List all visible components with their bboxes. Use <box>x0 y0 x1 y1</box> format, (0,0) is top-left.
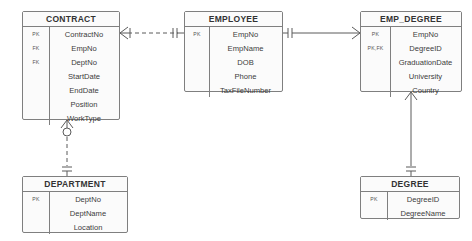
key-column-divider <box>209 27 210 97</box>
attribute-row[interactable]: DOB <box>185 55 282 69</box>
attribute-name: Location <box>49 223 127 232</box>
attribute-row[interactable]: DeptName <box>23 206 127 220</box>
relationship-empdegree-degree <box>405 92 417 176</box>
attribute-key: FK <box>23 45 49 51</box>
attribute-key: PK <box>23 196 49 202</box>
entity-contract[interactable]: CONTRACT PK ContractNo FK EmpNo FK DeptN… <box>22 11 120 120</box>
attribute-name: TaxFileNumber <box>209 86 282 95</box>
attribute-name: StartDate <box>49 72 119 81</box>
attribute-row[interactable]: EmpName <box>185 41 282 55</box>
one-and-only-one-employee-side <box>283 28 292 38</box>
attribute-row[interactable]: PK DeptNo <box>23 192 127 206</box>
attribute-key: PK <box>185 31 209 37</box>
relationship-contract-department <box>61 120 73 176</box>
entity-title-degree: DEGREE <box>361 177 459 192</box>
attribute-row[interactable]: EndDate <box>23 83 119 97</box>
relationship-employee-empdegree <box>283 27 360 39</box>
attribute-key: PK,FK <box>361 45 390 51</box>
attribute-row[interactable]: GraduationDate <box>361 55 461 69</box>
attribute-key: PK <box>361 31 390 37</box>
entity-title-emp-degree: EMP_DEGREE <box>361 12 461 27</box>
attribute-name: WorkType <box>49 114 119 123</box>
entity-title-department: DEPARTMENT <box>23 177 127 192</box>
attribute-row[interactable]: Phone <box>185 69 282 83</box>
crowsfoot-empdegree-side <box>352 27 360 39</box>
attribute-key: PK <box>23 31 49 37</box>
attribute-row[interactable]: PK ContractNo <box>23 27 119 41</box>
attribute-row[interactable]: University <box>361 69 461 83</box>
entity-emp-degree[interactable]: EMP_DEGREE PK EmpNo PK,FK DegreeID Gradu… <box>360 11 462 92</box>
attribute-list-department: PK DeptNo DeptName Location <box>23 192 127 234</box>
key-column-divider <box>387 192 388 220</box>
attribute-row[interactable]: Position <box>23 97 119 111</box>
attribute-name: DOB <box>209 58 282 67</box>
one-and-only-one-department-side <box>62 167 72 176</box>
attribute-row[interactable]: DegreeName <box>361 206 459 220</box>
attribute-name: EmpNo <box>390 30 461 39</box>
attribute-list-employee: PK EmpNo EmpName DOB Phone TaxFileNumber <box>185 27 282 97</box>
relationship-contract-employee <box>120 27 184 39</box>
attribute-name: Position <box>49 100 119 109</box>
entity-title-employee: EMPLOYEE <box>185 12 282 27</box>
attribute-list-degree: PK DegreeID DegreeName <box>361 192 459 220</box>
attribute-list-contract: PK ContractNo FK EmpNo FK DeptNo StartDa… <box>23 27 119 125</box>
attribute-name: Country <box>390 86 461 95</box>
attribute-name: DegreeName <box>387 209 459 218</box>
attribute-name: DegreeID <box>387 195 459 204</box>
attribute-name: DegreeID <box>390 44 461 53</box>
attribute-name: DeptName <box>49 209 127 218</box>
attribute-name: EmpNo <box>209 30 282 39</box>
entity-employee[interactable]: EMPLOYEE PK EmpNo EmpName DOB Phone TaxF… <box>184 11 283 92</box>
attribute-row[interactable]: StartDate <box>23 69 119 83</box>
attribute-row[interactable]: FK DeptNo <box>23 55 119 69</box>
attribute-row[interactable]: Location <box>23 220 127 234</box>
attribute-row[interactable]: WorkType <box>23 111 119 125</box>
attribute-name: Phone <box>209 72 282 81</box>
attribute-row[interactable]: PK EmpNo <box>185 27 282 41</box>
attribute-row[interactable]: PK,FK DegreeID <box>361 41 461 55</box>
key-column-divider <box>390 27 391 97</box>
er-diagram-canvas: CONTRACT PK ContractNo FK EmpNo FK DeptN… <box>0 0 472 241</box>
key-column-divider <box>49 27 50 125</box>
entity-department[interactable]: DEPARTMENT PK DeptNo DeptName Location <box>22 176 128 233</box>
attribute-key: FK <box>23 59 49 65</box>
attribute-row[interactable]: FK EmpNo <box>23 41 119 55</box>
one-and-only-one-degree-side <box>406 167 416 176</box>
attribute-row[interactable]: PK EmpNo <box>361 27 461 41</box>
one-and-only-one-employee-side <box>173 28 184 38</box>
attribute-key: PK <box>361 196 387 202</box>
entity-title-contract: CONTRACT <box>23 12 119 27</box>
attribute-row[interactable]: TaxFileNumber <box>185 83 282 97</box>
attribute-name: ContractNo <box>49 30 119 39</box>
attribute-row[interactable]: Country <box>361 83 461 97</box>
key-column-divider <box>49 192 50 234</box>
attribute-name: DeptNo <box>49 58 119 67</box>
attribute-name: GraduationDate <box>390 58 461 67</box>
entity-degree[interactable]: DEGREE PK DegreeID DegreeName <box>360 176 460 219</box>
attribute-name: University <box>390 72 461 81</box>
attribute-list-emp-degree: PK EmpNo PK,FK DegreeID GraduationDate U… <box>361 27 461 97</box>
attribute-name: EndDate <box>49 86 119 95</box>
attribute-row[interactable]: PK DegreeID <box>361 192 459 206</box>
attribute-name: EmpNo <box>49 44 119 53</box>
attribute-name: DeptNo <box>49 195 127 204</box>
attribute-name: EmpName <box>209 44 282 53</box>
